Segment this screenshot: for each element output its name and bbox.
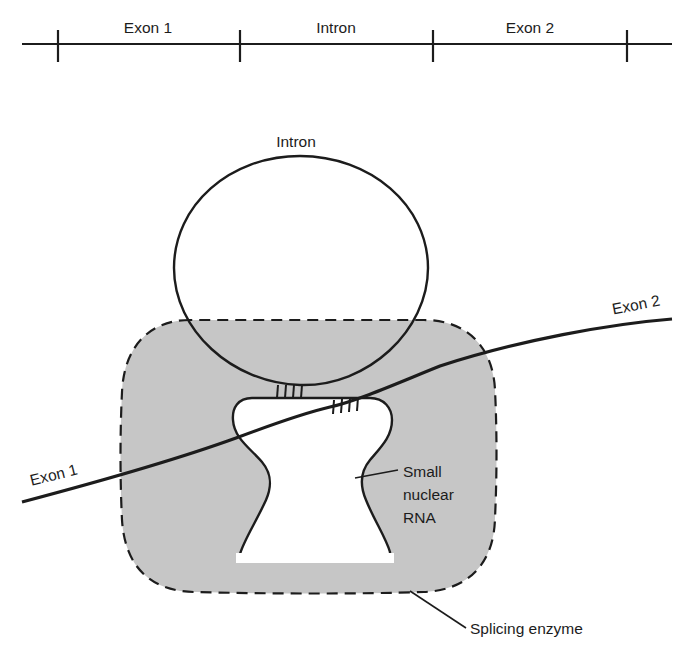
label-small-nuclear-rna-line-3: RNA bbox=[403, 509, 436, 526]
label-splicing-enzyme: Splicing enzyme bbox=[470, 620, 583, 637]
top-label-intron: Intron bbox=[316, 19, 356, 36]
base-pair-tick bbox=[357, 397, 358, 411]
label-small-nuclear-rna-line-1: Small bbox=[403, 463, 442, 480]
label-intron-loop: Intron bbox=[276, 133, 316, 150]
base-pair-tick bbox=[285, 385, 286, 398]
base-pair-tick bbox=[349, 398, 350, 412]
top-linear-map: Exon 1 Intron Exon 2 bbox=[22, 19, 672, 62]
base-pair-tick bbox=[277, 385, 278, 398]
label-exon-2: Exon 2 bbox=[611, 292, 662, 318]
base-pair-tick bbox=[301, 385, 302, 398]
main-splicing-diagram: Intron Exon 1 Exon 2 Small nuclear RNA S… bbox=[22, 133, 672, 637]
label-exon-1: Exon 1 bbox=[28, 461, 79, 489]
label-small-nuclear-rna-line-2: nuclear bbox=[403, 486, 454, 503]
base-pair-tick bbox=[293, 385, 294, 398]
splicing-enzyme-leader-line bbox=[410, 591, 466, 628]
splicing-diagram-canvas: Exon 1 Intron Exon 2 bbox=[0, 0, 691, 661]
rna-splicing-figure: Exon 1 Intron Exon 2 bbox=[0, 0, 691, 661]
cavity-bottom-opening bbox=[236, 553, 394, 563]
top-label-exon-2: Exon 2 bbox=[506, 19, 554, 36]
base-pair-tick bbox=[333, 400, 334, 414]
base-pair-tick bbox=[341, 399, 342, 413]
top-label-exon-1: Exon 1 bbox=[124, 19, 172, 36]
